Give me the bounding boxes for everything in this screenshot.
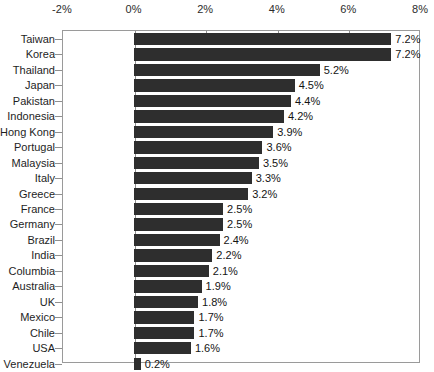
bar-value-label: 1.8% <box>202 296 227 309</box>
bar-category-label: Hong Kong <box>0 126 55 139</box>
bar-category-label: Chile <box>30 327 55 340</box>
bar-row: Brazil2.4% <box>0 234 434 249</box>
x-tick-label: 8% <box>412 3 428 16</box>
bar-row: Germany2.5% <box>0 218 434 233</box>
bar-category-label: France <box>21 203 55 216</box>
bar-value-label: 4.2% <box>288 110 313 123</box>
bar-row: Australia1.9% <box>0 280 434 295</box>
bar-category-label: Mexico <box>20 311 55 324</box>
bar-row: France2.5% <box>0 203 434 218</box>
bar-row: Portugal3.6% <box>0 141 434 156</box>
bar-row: Indonesia4.2% <box>0 110 434 125</box>
bar-value-label: 3.6% <box>266 141 291 154</box>
bar <box>134 249 213 261</box>
bar-value-label: 1.6% <box>195 342 220 355</box>
x-tick-label: 6% <box>340 3 356 16</box>
y-tick-mark <box>55 209 62 210</box>
bar <box>134 234 220 246</box>
bar-row: India2.2% <box>0 249 434 264</box>
bar-category-label: Venezuela <box>4 358 55 371</box>
y-tick-mark <box>55 54 62 55</box>
bar <box>134 265 209 277</box>
y-tick-mark <box>55 255 62 256</box>
bar <box>134 95 292 107</box>
bar-category-label: Pakistan <box>13 95 55 108</box>
bar-category-label: Portugal <box>14 141 55 154</box>
bar-value-label: 1.9% <box>206 280 231 293</box>
bar <box>134 48 392 60</box>
bar-category-label: India <box>31 249 55 262</box>
y-tick-mark <box>55 348 62 349</box>
bar-value-label: 3.3% <box>256 172 281 185</box>
bar-value-label: 7.2% <box>395 33 420 46</box>
bar-row: Italy3.3% <box>0 172 434 187</box>
bar-value-label: 2.2% <box>216 249 241 262</box>
bar <box>134 203 224 215</box>
bar-row: Mexico1.7% <box>0 311 434 326</box>
bar-category-label: Thailand <box>13 64 55 77</box>
bar-value-label: 5.2% <box>324 64 349 77</box>
x-tick-label: 0% <box>126 3 142 16</box>
y-tick-mark <box>55 240 62 241</box>
bar <box>134 172 252 184</box>
y-tick-mark <box>55 302 62 303</box>
bar-category-label: Malaysia <box>12 157 55 170</box>
y-tick-mark <box>55 271 62 272</box>
bar-category-label: Taiwan <box>21 33 55 46</box>
bar-category-label: Greece <box>19 188 55 201</box>
bar-category-label: Columbia <box>9 265 55 278</box>
y-tick-mark <box>55 286 62 287</box>
y-tick-mark <box>55 224 62 225</box>
bar-chart: -2%0%2%4%6%8% Taiwan7.2%Korea7.2%Thailan… <box>0 0 434 372</box>
bar <box>134 296 198 308</box>
y-tick-mark <box>55 317 62 318</box>
y-tick-mark <box>55 364 62 365</box>
y-tick-mark <box>55 101 62 102</box>
y-tick-mark <box>55 132 62 133</box>
bar-row: Columbia2.1% <box>0 265 434 280</box>
bar-value-label: 0.2% <box>145 358 170 371</box>
bar <box>134 280 202 292</box>
bar-category-label: Brazil <box>27 234 55 247</box>
bar-value-label: 3.9% <box>277 126 302 139</box>
bar <box>134 358 141 370</box>
x-tick-label: 2% <box>197 3 213 16</box>
bar-category-label: Korea <box>26 48 55 61</box>
bar-row: Venezuela0.2% <box>0 358 434 372</box>
bar <box>134 188 249 200</box>
bar-value-label: 2.1% <box>213 265 238 278</box>
bar-row: Japan4.5% <box>0 79 434 94</box>
bar-row: Malaysia3.5% <box>0 157 434 172</box>
bar-value-label: 7.2% <box>395 48 420 61</box>
bar-row: Greece3.2% <box>0 188 434 203</box>
bar-row: Taiwan7.2% <box>0 33 434 48</box>
y-tick-mark <box>55 39 62 40</box>
bar-row: Korea7.2% <box>0 48 434 63</box>
bar-value-label: 1.7% <box>198 327 223 340</box>
bar-value-label: 2.5% <box>227 218 252 231</box>
bar-value-label: 1.7% <box>198 311 223 324</box>
bar-row: USA1.6% <box>0 342 434 357</box>
y-tick-mark <box>55 178 62 179</box>
bar-category-label: Indonesia <box>7 110 55 123</box>
y-tick-mark <box>55 147 62 148</box>
y-tick-mark <box>55 116 62 117</box>
bar-value-label: 2.4% <box>224 234 249 247</box>
bar-category-label: UK <box>40 296 55 309</box>
bar <box>134 311 195 323</box>
bar <box>134 218 224 230</box>
y-tick-mark <box>55 163 62 164</box>
y-tick-mark <box>55 70 62 71</box>
bar <box>134 64 320 76</box>
bar-row: Hong Kong3.9% <box>0 126 434 141</box>
y-tick-mark <box>55 194 62 195</box>
bar-row: Chile1.7% <box>0 327 434 342</box>
y-tick-mark <box>55 333 62 334</box>
bar-value-label: 4.5% <box>299 79 324 92</box>
bar-value-label: 4.4% <box>295 95 320 108</box>
bar-row: Pakistan4.4% <box>0 95 434 110</box>
bar-category-label: Japan <box>25 79 55 92</box>
bar <box>134 327 195 339</box>
bar <box>134 342 191 354</box>
bar <box>134 110 284 122</box>
